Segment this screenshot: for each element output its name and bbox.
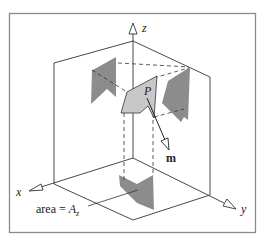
vector-label: m xyxy=(166,151,176,165)
x-axis-label: x xyxy=(15,185,22,199)
vector-m-arrowhead xyxy=(161,138,169,150)
z-axis-arrowhead xyxy=(129,23,137,34)
vector-m-shaft xyxy=(147,98,165,140)
patch-p xyxy=(121,76,157,118)
area-subscript: z xyxy=(75,209,80,218)
x-axis xyxy=(41,158,133,187)
z-axis-label: z xyxy=(141,21,147,35)
patch-label: P xyxy=(143,84,152,98)
y-axis-label: y xyxy=(240,202,247,216)
figure-frame xyxy=(10,14,256,233)
projection-x-patch xyxy=(91,57,116,104)
y-axis-arrowhead xyxy=(223,199,236,209)
yz-plane-outline xyxy=(133,41,210,195)
area-pointer-line xyxy=(88,190,138,206)
projection-z-patch xyxy=(119,175,154,210)
area-annotation-prefix: area = xyxy=(36,202,69,216)
vector-area-diagram: z x y P m area = Az xyxy=(0,0,265,242)
projection-y-patch xyxy=(162,67,190,122)
x-axis-arrowhead xyxy=(29,184,43,191)
area-annotation: area = Az xyxy=(36,202,80,218)
